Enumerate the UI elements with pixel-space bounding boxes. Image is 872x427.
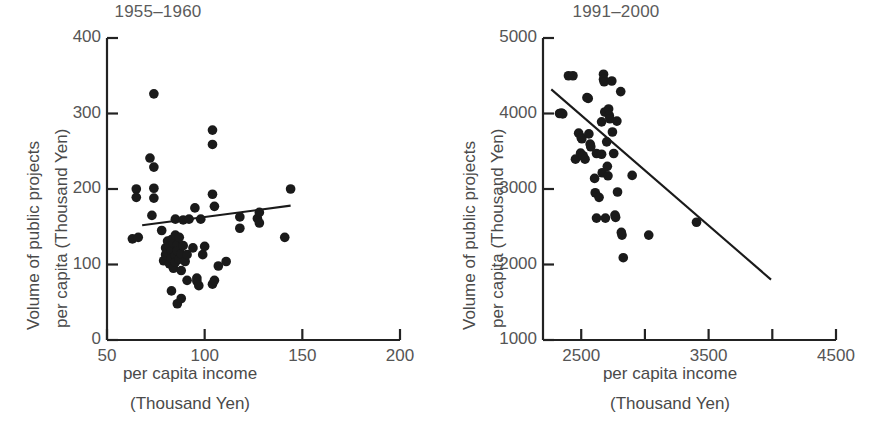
data-point	[597, 149, 607, 159]
data-point	[568, 71, 578, 81]
data-point	[594, 192, 604, 202]
y-tick-label: 300	[73, 103, 101, 123]
data-point	[601, 213, 611, 223]
data-point	[616, 87, 626, 97]
x-tick-label: 4500	[796, 346, 872, 366]
data-point	[627, 171, 637, 181]
data-point	[618, 253, 628, 263]
plot-area	[543, 38, 836, 340]
data-point	[147, 211, 157, 221]
data-point	[612, 116, 622, 126]
trend-line	[551, 89, 771, 279]
data-point	[194, 281, 204, 291]
data-point	[196, 214, 206, 224]
data-point	[133, 232, 143, 242]
x-tick-label: 200	[360, 346, 440, 366]
data-point	[178, 241, 188, 251]
data-point	[583, 94, 593, 104]
data-point	[235, 212, 245, 222]
data-point	[208, 189, 218, 199]
y-tick-label: 100	[73, 254, 101, 274]
data-points	[555, 69, 702, 262]
panel-1955-1960: 1955–1960 Volume of public projects per …	[0, 0, 436, 427]
data-point	[255, 208, 265, 218]
data-point	[176, 266, 186, 276]
y-tick-label: 2000	[499, 254, 537, 274]
data-point	[149, 89, 159, 99]
data-point	[200, 242, 210, 252]
data-point	[280, 232, 290, 242]
x-tick-label: 100	[165, 346, 245, 366]
data-point	[198, 250, 208, 260]
y-tick-label: 400	[73, 27, 101, 47]
data-point	[584, 129, 594, 139]
data-point	[145, 153, 155, 163]
data-point	[149, 193, 159, 203]
data-point	[644, 230, 654, 240]
data-point	[597, 117, 607, 127]
data-point	[613, 187, 623, 197]
data-point	[617, 230, 627, 240]
data-point	[176, 294, 186, 304]
data-point	[286, 184, 296, 194]
data-point	[210, 202, 220, 212]
panel-1991-2000: 1991–2000 Volume of public projects per …	[436, 0, 872, 427]
figure-root: 1955–1960 Volume of public projects per …	[0, 0, 872, 427]
data-point	[255, 218, 265, 228]
x-tick-label: 2500	[541, 346, 621, 366]
data-point	[592, 213, 602, 223]
data-point	[182, 276, 192, 286]
y-tick-label: 4000	[499, 103, 537, 123]
y-tick-label: 1000	[499, 329, 537, 349]
data-point	[184, 214, 194, 224]
x-axis-title-line2: (Thousand Yen)	[0, 394, 408, 414]
data-point	[611, 212, 621, 222]
x-tick-label: 150	[262, 346, 342, 366]
data-points	[128, 89, 296, 309]
data-point	[157, 226, 167, 236]
plot-area	[107, 38, 400, 340]
data-point	[208, 140, 218, 150]
data-point	[188, 243, 198, 253]
data-point	[131, 192, 141, 202]
data-point	[609, 149, 619, 159]
y-tick-label: 3000	[499, 178, 537, 198]
data-point	[590, 174, 600, 184]
data-point	[149, 162, 159, 172]
data-point	[131, 184, 141, 194]
x-tick-label: 3500	[669, 346, 749, 366]
data-point	[167, 286, 177, 296]
x-axis-title-line2: (Thousand Yen)	[452, 394, 872, 414]
y-tick-label: 200	[73, 178, 101, 198]
x-axis-title-line1: per capita income	[0, 364, 408, 384]
data-point	[190, 203, 200, 213]
data-point	[208, 125, 218, 135]
data-point	[608, 127, 618, 137]
data-point	[210, 276, 220, 286]
data-point	[603, 171, 613, 181]
data-point	[692, 217, 702, 227]
data-point	[558, 109, 568, 119]
x-tick-label: 50	[67, 346, 147, 366]
data-point	[149, 183, 159, 193]
data-point	[580, 154, 590, 164]
data-point	[174, 232, 184, 242]
data-point	[221, 257, 231, 267]
x-axis-title-line1: per capita income	[452, 364, 872, 384]
y-tick-label: 5000	[499, 27, 537, 47]
data-point	[603, 162, 613, 172]
data-point	[235, 223, 245, 233]
data-point	[607, 76, 617, 86]
data-point	[602, 137, 612, 147]
